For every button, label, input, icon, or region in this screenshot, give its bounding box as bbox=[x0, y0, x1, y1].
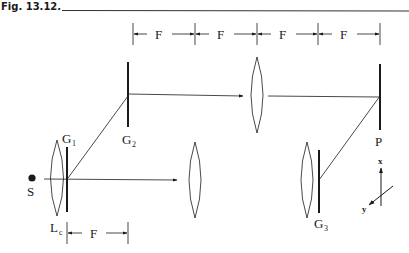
plane-p-label: P bbox=[375, 134, 382, 149]
bottom-lens bbox=[189, 142, 201, 218]
y-axis-label: y bbox=[362, 204, 367, 214]
axes-indicator: x y bbox=[362, 156, 393, 214]
dimension-label-f2: F bbox=[217, 27, 224, 42]
source-dot bbox=[28, 174, 35, 181]
dimension-label-f3: F bbox=[279, 27, 286, 42]
bottom-dimension-label: F bbox=[90, 226, 97, 241]
source-label: S bbox=[27, 184, 34, 199]
title-rule bbox=[62, 11, 409, 12]
top-lens bbox=[251, 57, 263, 133]
ray-lens-to-plane bbox=[268, 96, 380, 97]
x-axis-label: x bbox=[378, 156, 383, 166]
grating-g2-label: G bbox=[122, 132, 131, 147]
g3-lens bbox=[301, 142, 313, 218]
ray-source-to-lens bbox=[44, 179, 177, 180]
grating-g3-subscript: 3 bbox=[324, 224, 328, 233]
figure-title: Fig. 13.12. bbox=[1, 1, 61, 12]
grating-g1-subscript: 1 bbox=[72, 139, 76, 148]
dimension-label-f4: F bbox=[340, 27, 347, 42]
collimator-lens-label: L bbox=[50, 220, 58, 235]
ray-g1-to-g2 bbox=[68, 96, 128, 178]
grating-g2-subscript: 2 bbox=[132, 140, 136, 149]
bottom-dimension-line bbox=[67, 222, 128, 244]
collimator-lens-subscript: c bbox=[59, 228, 63, 237]
optical-setup-diagram: Fig. 13.12. F F F F S L c G 1 G 2 bbox=[0, 0, 409, 253]
grating-g1-label: G bbox=[62, 131, 71, 146]
grating-g3-label: G bbox=[314, 216, 323, 231]
dimension-label-f1: F bbox=[155, 27, 162, 42]
collimator-lens bbox=[51, 140, 64, 216]
ray-g3-to-plane bbox=[319, 96, 380, 180]
ray-g2-to-lens bbox=[128, 94, 243, 96]
